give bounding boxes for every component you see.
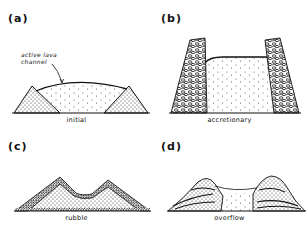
overflow-channel-diagram	[153, 114, 307, 228]
initial-channel-diagram	[0, 0, 153, 114]
caption-rubble: rubble	[0, 214, 153, 222]
panel-b: (b) accretionary	[153, 0, 306, 114]
panel-d: (d) overflow	[153, 114, 306, 228]
panel-a: (a) active lava channel initial	[0, 0, 153, 114]
panel-c: (c) rubble	[0, 114, 153, 228]
accretionary-channel-diagram	[153, 0, 307, 114]
rubble-channel-diagram	[0, 114, 153, 228]
caption-overflow: overflow	[153, 214, 306, 222]
